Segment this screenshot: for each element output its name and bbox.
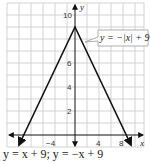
x-tick-8: 8 [119, 139, 124, 148]
y-tick-2: 2 [67, 107, 72, 116]
y-axis-label: y [79, 2, 84, 12]
caption: y = x + 9; y = −x + 9 [3, 147, 103, 162]
callout-text: y = −|x| + 9 [99, 32, 150, 43]
callout: y = −|x| + 9 [85, 30, 150, 46]
y-tick-10: 10 [63, 11, 72, 20]
y-tick-6: 6 [67, 59, 72, 68]
x-axis-label: x [139, 138, 144, 148]
y-tick-4: 4 [67, 83, 72, 92]
graph: x y −4 4 8 2 4 6 10 y = −|x| + 9 [0, 0, 150, 164]
